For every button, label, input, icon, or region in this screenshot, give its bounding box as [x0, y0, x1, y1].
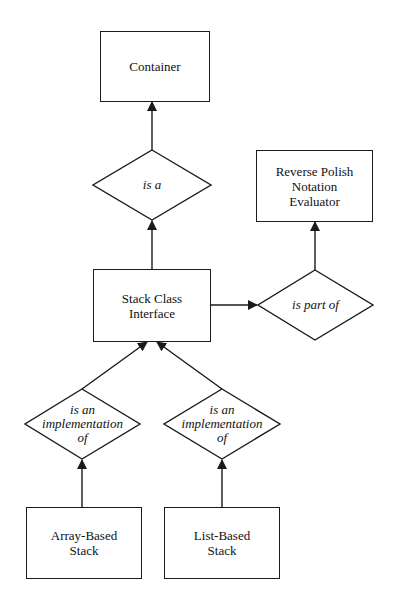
entity-container-label: Container: [129, 59, 180, 74]
impl-left-line-3: of: [77, 431, 87, 445]
entity-stack-label-line-2: Interface: [129, 306, 175, 321]
relation-impl-right-label: is an implementation of: [164, 402, 280, 446]
edge-impl-left-to-stack: [82, 342, 147, 389]
relation-part-of-label: is part of: [258, 295, 373, 315]
entity-stack-label-line-1: Stack Class: [122, 291, 182, 306]
entity-container: Container: [100, 31, 210, 102]
entity-stack-class-interface: Stack Class Interface: [93, 269, 211, 342]
entity-rpn-label-line-2: Notation: [292, 179, 338, 194]
impl-right-line-2: implementation: [182, 417, 263, 431]
entity-list-label-line-1: List-Based: [194, 528, 250, 543]
entity-array-label-line-2: Stack: [70, 543, 99, 558]
entity-array-based-stack: Array-Based Stack: [26, 507, 142, 579]
entity-list-based-stack: List-Based Stack: [164, 507, 280, 579]
entity-rpn-label-line-3: Evaluator: [289, 194, 340, 209]
impl-right-line-1: is an: [210, 403, 235, 417]
entity-list-label-line-2: Stack: [208, 543, 237, 558]
entity-rpn-evaluator: Reverse Polish Notation Evaluator: [256, 150, 373, 222]
relation-is-a-label: is a: [93, 175, 211, 195]
relation-part-of-text: is part of: [292, 298, 339, 312]
relation-is-a-text: is a: [143, 178, 161, 192]
impl-right-line-3: of: [217, 431, 227, 445]
entity-rpn-label-line-1: Reverse Polish: [276, 164, 354, 179]
impl-left-line-1: is an: [70, 403, 95, 417]
impl-left-line-2: implementation: [42, 417, 123, 431]
relation-impl-left-label: is an implementation of: [25, 402, 140, 446]
entity-array-label-line-1: Array-Based: [51, 528, 117, 543]
edge-impl-right-to-stack: [157, 342, 222, 389]
